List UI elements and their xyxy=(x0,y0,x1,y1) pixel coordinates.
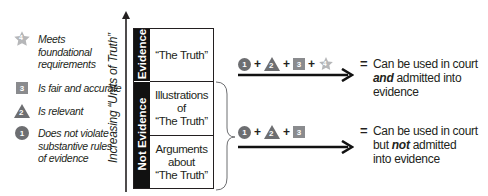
plus-sign: + xyxy=(283,125,290,139)
cell-text: “The Truth” xyxy=(155,49,207,62)
result-text: but not admitted xyxy=(373,138,478,152)
emphasis-and: and xyxy=(373,71,393,85)
equals-sign: = xyxy=(360,123,368,138)
circle-icon: 1 xyxy=(238,126,251,139)
star-number: 4 xyxy=(19,34,23,41)
square-icon: 3 xyxy=(16,82,28,94)
category-evidence: Evidence xyxy=(136,28,148,80)
result-text-pre: but xyxy=(373,138,392,152)
result-text-rest: admitted xyxy=(410,138,457,152)
formula-not-admitted: 1 + 2 + 3 xyxy=(238,124,305,140)
square-number: 3 xyxy=(20,84,24,93)
triangle-icon: 2 xyxy=(14,104,30,118)
result-text-rest: admitted into xyxy=(393,71,461,85)
result-not-admitted: Can be used in court but not admitted in… xyxy=(373,124,478,166)
legend-text-line: foundational xyxy=(38,46,96,59)
cell-text: of xyxy=(177,102,186,115)
legend-item-foundational: Meets foundational requirements xyxy=(38,33,96,71)
result-text: and admitted into xyxy=(373,71,478,85)
cell-text: Illustrations xyxy=(155,89,208,102)
badge-number: 4 xyxy=(323,60,327,67)
cell-illustrations: Illustrations of “The Truth” xyxy=(150,82,213,135)
up-arrow-icon xyxy=(119,10,133,192)
equals-sign: = xyxy=(360,56,368,71)
badge-number: 2 xyxy=(269,129,273,138)
triangle-icon: 2 xyxy=(264,125,280,139)
circle-number: 1 xyxy=(20,129,24,138)
cell-the-truth: “The Truth” xyxy=(150,29,213,81)
category-not-evidence: Not Evidence xyxy=(136,91,148,177)
cell-text: Arguments xyxy=(155,143,207,156)
result-text: Can be used in court xyxy=(373,57,478,71)
legend-item-relevant: Is relevant xyxy=(38,105,83,118)
legend-text-line: of evidence xyxy=(38,152,112,165)
cell-text: “The Truth” xyxy=(155,169,207,182)
right-arrow-icon xyxy=(238,140,354,154)
right-arrow-icon xyxy=(238,68,354,82)
result-text: into evidence xyxy=(373,152,478,166)
legend-text-line: substantive rules xyxy=(38,140,112,153)
result-text: evidence xyxy=(373,85,478,99)
result-admitted: Can be used in court and admitted into e… xyxy=(373,57,478,99)
category-divider xyxy=(134,81,150,82)
legend-text-line: requirements xyxy=(38,58,96,71)
legend-text-line: Meets xyxy=(38,33,96,46)
square-icon: 3 xyxy=(293,126,305,138)
legend-text-line: Does not violate xyxy=(38,127,112,140)
evidence-table: Evidence Not Evidence “The Truth” Illust… xyxy=(133,28,214,189)
circle-icon: 1 xyxy=(15,126,29,140)
result-text: Can be used in court xyxy=(373,124,478,138)
triangle-number: 2 xyxy=(19,108,23,117)
emphasis-not: not xyxy=(392,138,410,152)
cell-text: “The Truth” xyxy=(155,115,207,128)
plus-sign: + xyxy=(254,125,261,139)
cell-arguments: Arguments about “The Truth” xyxy=(150,136,213,188)
legend-item-substantive-rules: Does not violate substantive rules of ev… xyxy=(38,127,112,165)
cell-text: about xyxy=(168,156,195,169)
badge-number: 3 xyxy=(297,128,301,137)
star-icon: 4 xyxy=(13,30,31,48)
axis-label: Increasing “Units of Truth” xyxy=(106,43,120,163)
badge-number: 1 xyxy=(242,128,246,137)
